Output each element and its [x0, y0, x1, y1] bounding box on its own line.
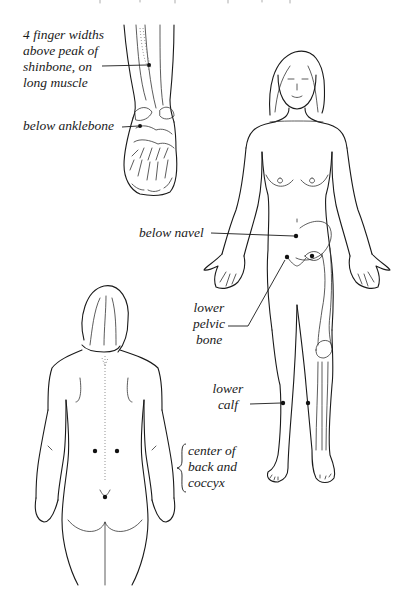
label-center-back-coccyx: center of back and coccyx	[188, 443, 237, 491]
pelvic-point	[285, 255, 289, 259]
label-lower-calf: lower calf	[206, 381, 250, 413]
label-lower-pelvic-bone: lower pelvic bone	[184, 300, 234, 348]
leg-foot-illustration	[102, 25, 177, 195]
shinbone-point	[147, 63, 151, 67]
calf-point-left	[281, 401, 285, 405]
pelvic-leader	[228, 260, 285, 326]
back-body-illustration	[35, 286, 174, 585]
label-below-navel: below navel	[139, 225, 204, 241]
anatomy-diagram: 4 finger widths above peak of shinbone, …	[0, 0, 410, 590]
coccyx-point	[103, 495, 107, 499]
back-point-left	[93, 449, 97, 453]
anklebone-point	[138, 124, 142, 128]
back-point-right	[115, 449, 119, 453]
label-shinbone: 4 finger widths above peak of shinbone, …	[23, 27, 104, 91]
shinbone-leader	[102, 65, 147, 66]
anklebone-leader	[122, 126, 138, 127]
navel-leader	[211, 233, 294, 236]
navel-point	[294, 234, 298, 238]
calf-point-right	[306, 401, 310, 405]
front-body-illustration	[204, 51, 390, 482]
label-anklebone: below anklebone	[23, 118, 114, 134]
back-label-brace	[177, 444, 186, 492]
calf-leader	[250, 403, 281, 404]
